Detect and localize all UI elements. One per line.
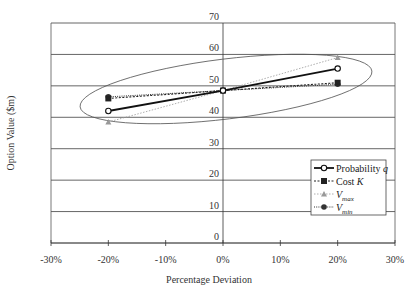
x-tick-label: -20%	[97, 254, 119, 265]
y-tick-label: 60	[209, 42, 219, 53]
sensitivity-chart: 010203040506070 -30%-20%-10%0%10%20%30% …	[0, 0, 418, 298]
y-axis-label: Option Value ($m)	[5, 96, 17, 171]
x-tick-label: 20%	[328, 254, 346, 265]
y-tick-label: 20	[209, 168, 219, 179]
legend-label: Cost K	[336, 176, 365, 187]
y-tick-labels: 010203040506070	[209, 11, 219, 242]
x-tick-label: 30%	[386, 254, 404, 265]
x-tick-label: 0%	[216, 254, 229, 265]
y-tick-label: 10	[209, 200, 219, 211]
x-tick-label: 10%	[271, 254, 289, 265]
y-tick-label: 70	[209, 11, 219, 22]
x-tick-label: -10%	[155, 254, 177, 265]
x-tick-label: -30%	[40, 254, 62, 265]
legend: Probability qCost KVmaxVmin	[311, 160, 388, 216]
x-tick-labels: -30%-20%-10%0%10%20%30%	[40, 254, 404, 265]
y-tick-label: 0	[214, 231, 219, 242]
y-tick-label: 50	[209, 74, 219, 85]
x-axis-label: Percentage Deviation	[166, 274, 252, 285]
y-tick-label: 40	[209, 105, 219, 116]
y-tick-label: 30	[209, 137, 219, 148]
legend-label: Probability q	[336, 163, 388, 174]
